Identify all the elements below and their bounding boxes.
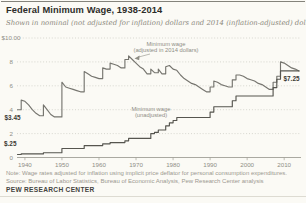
x-axis-tick-label: 1990 [203, 161, 217, 168]
x-axis-tick-label: 2010 [277, 161, 291, 168]
series-label: Minimum wage [147, 41, 186, 47]
x-axis-tick-label: 1980 [166, 161, 180, 168]
y-axis-tick-label: 0 [10, 154, 14, 161]
x-axis-tick-label: 1940 [18, 161, 32, 168]
annotation-25: $.25 [4, 140, 17, 148]
minimum-wage-chart-card: Federal Minimum Wage, 1938-2014 Shown in… [0, 0, 306, 203]
series-label: Minimum wage [132, 106, 171, 112]
x-axis-tick-label: 1970 [129, 161, 143, 168]
series-label: (adjusted in 2014 dollars) [133, 47, 198, 53]
label-leader-line [138, 54, 150, 57]
footnote: Note: Wage rates adjusted for inflation … [6, 170, 306, 176]
y-axis-tick-label: 8 [10, 58, 14, 65]
source-line: Source: Bureau of Labor Statistics, Bure… [6, 178, 306, 184]
label-leader-arrowhead-icon [135, 55, 140, 60]
y-axis-tick-label: 2 [10, 130, 14, 137]
y-axis-tick-label: 6 [10, 82, 14, 89]
annotation-345: $3.45 [5, 114, 21, 122]
x-axis-tick-label: 2000 [240, 161, 254, 168]
series-label: (unadjusted) [135, 112, 167, 118]
x-axis-tick-label: 1950 [55, 161, 69, 168]
x-axis-tick-label: 1960 [92, 161, 106, 168]
y-axis-tick-label: $10.00 [2, 34, 21, 41]
annotation-725: $7.25 [284, 75, 300, 83]
bottom-divider [0, 196, 306, 197]
y-axis-tick-label: 4 [10, 106, 14, 113]
pew-research-center-wordmark: PEW RESEARCH CENTER [6, 186, 95, 193]
